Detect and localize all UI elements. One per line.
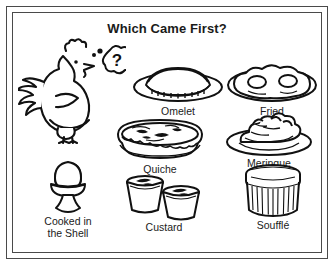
custard-cups-icon (116, 172, 212, 222)
egg-in-egg-cup-icon (26, 160, 110, 216)
poster: Which Came First? (0, 0, 334, 265)
item-label-souffle: Soufflé (225, 220, 321, 232)
meringue-on-plate-icon (219, 112, 319, 158)
souffle-ramekin-icon (225, 162, 321, 220)
item-custard: Custard (116, 172, 212, 234)
item-omelet: Omelet (130, 60, 226, 118)
item-fried: Fried (224, 62, 320, 118)
item-souffle: Soufflé (225, 162, 321, 232)
item-shell: Cooked in the Shell (26, 160, 110, 239)
poster-stage: Which Came First? (12, 12, 322, 253)
item-meringue: Meringue (219, 112, 319, 170)
item-label-custard: Custard (116, 222, 212, 234)
thought-bubble-icon: ? (92, 46, 126, 73)
item-label-shell: Cooked in the Shell (26, 216, 110, 239)
omelet-on-plate-icon (130, 60, 226, 106)
quiche-pie-icon (110, 114, 210, 164)
fried-eggs-on-plate-icon (224, 62, 320, 106)
item-quiche: Quiche (110, 114, 210, 176)
question-mark: ? (112, 51, 122, 70)
